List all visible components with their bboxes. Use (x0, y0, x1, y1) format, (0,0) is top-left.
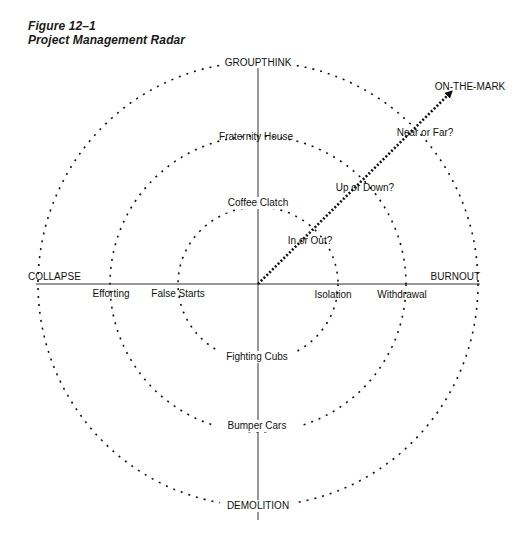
ring-label-bumper-cars: Bumper Cars (228, 420, 287, 431)
ring-label-coffee-clatch: Coffee Clatch (228, 197, 288, 208)
axis-label-bottom: DEMOLITION (227, 500, 289, 511)
radar-diagram: GROUPTHINK DEMOLITION COLLAPSE BURNOUT C… (0, 0, 518, 533)
question-up-or-down: Up or Down? (336, 182, 395, 193)
question-near-or-far: Near or Far? (397, 127, 454, 138)
ring-label-fraternity-house: Fraternity House (219, 131, 293, 142)
ring-label-false-starts: False Starts (151, 288, 204, 299)
question-in-or-out: In or Out? (288, 235, 333, 246)
target-label-on-the-mark: ON-THE-MARK (435, 81, 506, 92)
ring-label-withdrawal: Withdrawal (377, 289, 426, 300)
ring-label-fighting-cubs: Fighting Cubs (226, 351, 288, 362)
axis-label-right: BURNOUT (431, 271, 480, 282)
ring-label-efforting: Efforting (92, 288, 129, 299)
axis-label-top: GROUPTHINK (225, 57, 292, 68)
ring-label-isolation: Isolation (314, 289, 351, 300)
axis-label-left: COLLAPSE (28, 271, 81, 282)
